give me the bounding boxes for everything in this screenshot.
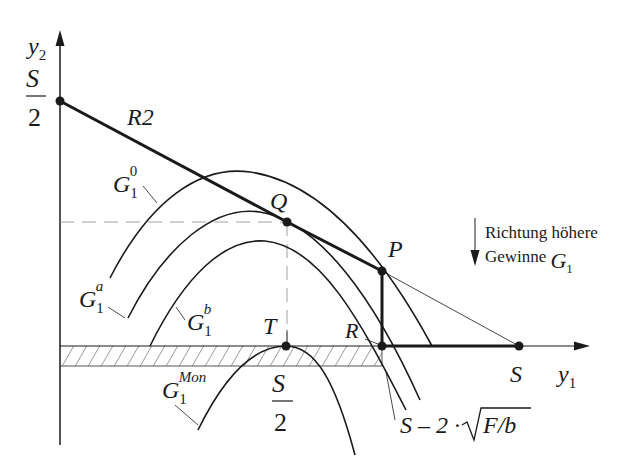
svg-text:G1Mon: G1Mon [162,369,206,407]
formula-label: S – 2 · F/b [400,408,531,440]
label-p: P [387,236,403,262]
point-t [282,342,291,351]
diagram-canvas: y2 S 2 R2 Q P T R G10 G1a G1b G1Mon S 2 … [0,0,626,465]
svg-text:G10: G10 [113,163,138,201]
point-p [378,267,387,276]
direction-annotation: Richtung höhere GewinneG1 [485,223,598,276]
label-q: Q [270,188,287,214]
point-q [283,218,292,227]
y-axis [56,30,65,445]
svg-text:S: S [26,64,39,93]
label-r: R [344,318,359,343]
svg-text:GewinneG1: GewinneG1 [485,247,573,276]
svg-text:F/b: F/b [482,412,516,438]
point-s-half [56,97,65,106]
hatched-region [60,346,382,366]
label-r2: R2 [126,104,154,130]
x-axis-arrow-icon [574,342,590,351]
down-arrow-icon [471,218,480,266]
svg-text:G1a: G1a [79,278,104,316]
x-axis-label: y1 [556,361,576,391]
label-g1-0: G10 [113,163,138,201]
svg-text:S: S [272,369,285,398]
svg-text:Richtung höhere: Richtung höhere [485,223,598,242]
svg-text:2: 2 [28,103,41,132]
svg-text:S – 2 ·: S – 2 · [400,412,460,438]
tangent-line [382,271,519,346]
point-r [378,342,387,351]
label-g1-a: G1a [79,278,104,316]
label-g1-b: G1b [187,301,212,339]
x-tick-s: S [510,361,522,387]
x-tick-s-half: S 2 [272,369,293,437]
svg-text:G1b: G1b [187,301,212,339]
point-s [515,342,524,351]
y-tick-s-half: S 2 [26,64,46,132]
label-g1-mon: G1Mon [162,369,206,407]
y-axis-arrow-icon [56,30,65,46]
y-axis-label: y2 [26,33,46,63]
label-t: T [263,313,278,339]
svg-text:2: 2 [274,408,287,437]
